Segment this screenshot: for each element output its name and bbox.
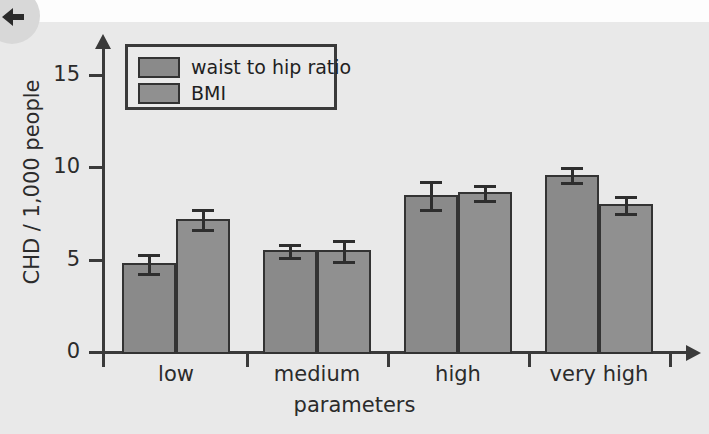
- x-axis-category-label: very high: [525, 364, 673, 385]
- error-bar-cap-top: [474, 185, 496, 188]
- legend-swatch-icon: [138, 83, 180, 104]
- legend-entry[interactable]: waist to hip ratio: [138, 55, 351, 79]
- x-axis-category-label: medium: [243, 364, 391, 385]
- error-bar-cap-top: [279, 244, 301, 247]
- x-axis-arrowhead: [686, 345, 701, 361]
- bar-high-waist-to-hip-ratio[interactable]: [404, 195, 458, 354]
- x-axis-category-label: low: [102, 364, 250, 385]
- error-bar-cap-bottom: [474, 200, 496, 203]
- error-bar-cap-bottom: [333, 261, 355, 264]
- error-bar-cap-bottom: [138, 273, 160, 276]
- y-axis-line: [102, 46, 105, 354]
- y-axis-title: CHD / 1,000 people: [20, 62, 44, 302]
- y-axis-tick: [89, 74, 103, 77]
- x-axis-category-label: high: [384, 364, 532, 385]
- error-bar-cap-bottom: [561, 182, 583, 185]
- x-axis-title: parameters: [0, 393, 709, 417]
- error-bar-stem: [430, 181, 433, 209]
- bar-very-high-BMI[interactable]: [599, 204, 653, 354]
- bar-high-BMI[interactable]: [458, 192, 512, 354]
- error-bar-cap-bottom: [615, 213, 637, 216]
- error-bar-stem: [202, 209, 205, 229]
- legend-label: waist to hip ratio: [191, 58, 351, 77]
- x-axis-tick-origin: [102, 354, 105, 367]
- chart-legend: waist to hip ratioBMI: [125, 44, 337, 110]
- figure-root: 051015 lowmediumhighvery high CHD / 1,00…: [0, 0, 709, 434]
- error-bar-cap-top: [192, 209, 214, 212]
- bar-medium-waist-to-hip-ratio[interactable]: [263, 250, 317, 354]
- y-axis-tick-label: 0: [34, 341, 80, 362]
- y-axis-tick: [89, 166, 103, 169]
- plot-area: 051015 lowmediumhighvery high CHD / 1,00…: [0, 0, 709, 434]
- legend-swatch-icon: [138, 57, 180, 78]
- error-bar-cap-top: [561, 167, 583, 170]
- bar-medium-BMI[interactable]: [317, 250, 371, 354]
- error-bar-stem: [343, 240, 346, 260]
- y-axis-tick: [89, 351, 103, 354]
- bar-low-waist-to-hip-ratio[interactable]: [122, 263, 176, 354]
- error-bar-cap-top: [420, 181, 442, 184]
- error-bar-cap-bottom: [420, 209, 442, 212]
- error-bar-cap-top: [333, 240, 355, 243]
- legend-label: BMI: [191, 84, 226, 103]
- bar-very-high-waist-to-hip-ratio[interactable]: [545, 175, 599, 354]
- bar-low-BMI[interactable]: [176, 219, 230, 354]
- error-bar-cap-top: [138, 254, 160, 257]
- error-bar-cap-bottom: [192, 229, 214, 232]
- error-bar-cap-top: [615, 196, 637, 199]
- y-axis-arrowhead: [95, 34, 111, 49]
- error-bar-cap-bottom: [279, 257, 301, 260]
- y-axis-tick: [89, 259, 103, 262]
- legend-entry[interactable]: BMI: [138, 81, 226, 105]
